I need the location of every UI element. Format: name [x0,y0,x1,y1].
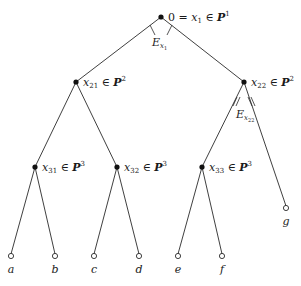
terminal-b [52,253,57,258]
game-tree-diagram: 0 = x1 ∈ P1 Ex1 x21 ∈ P2 x22 ∈ P2 Ex22 x… [0,0,301,286]
terminal-e [175,253,180,258]
edge-x22-g [244,82,286,206]
label-terminal-a: a [8,263,15,276]
edge-x31-a [11,167,35,254]
info-set-bracket-x1 [150,25,172,35]
terminal-c [91,253,96,258]
node-x32 [114,164,119,169]
edge-x1-x22 [161,17,244,82]
edge-x21-x32 [76,82,117,167]
terminal-a [8,253,13,258]
edge-x33-f [202,167,222,254]
label-info-set-x1: Ex1 [151,36,167,51]
node-x33 [199,164,204,169]
info-set-bracket-x22 [233,97,255,106]
terminal-nodes [8,205,288,258]
edge-x32-c [94,167,117,254]
label-x31: x31 ∈ P3 [42,160,85,175]
label-terminal-c: c [91,263,97,276]
edge-x31-b [35,167,55,254]
decision-nodes [32,14,246,169]
node-x22 [241,79,246,84]
label-x1: 0 = x1 ∈ P1 [168,10,230,25]
edge-x33-e [178,167,202,254]
terminal-g [283,205,288,210]
label-terminal-e: e [175,263,182,276]
node-x1 [158,14,163,19]
label-terminal-g: g [282,215,289,228]
label-terminal-f: f [219,263,226,276]
label-x22: x22 ∈ P2 [251,75,294,90]
label-terminal-b: b [51,263,58,276]
edge-x21-x31 [35,82,76,167]
label-x21: x21 ∈ P2 [83,75,126,90]
tree-edges [11,17,286,254]
label-x33: x33 ∈ P3 [209,160,252,175]
node-x31 [32,164,37,169]
label-info-set-x22: Ex22 [235,108,254,123]
node-x21 [73,79,78,84]
terminal-d [136,253,141,258]
edge-x1-x21 [76,17,161,82]
terminal-f [219,253,224,258]
edge-x22-x33 [202,82,244,167]
label-terminal-d: d [135,263,142,276]
label-x32: x32 ∈ P3 [124,160,167,175]
edge-x32-d [117,167,139,254]
